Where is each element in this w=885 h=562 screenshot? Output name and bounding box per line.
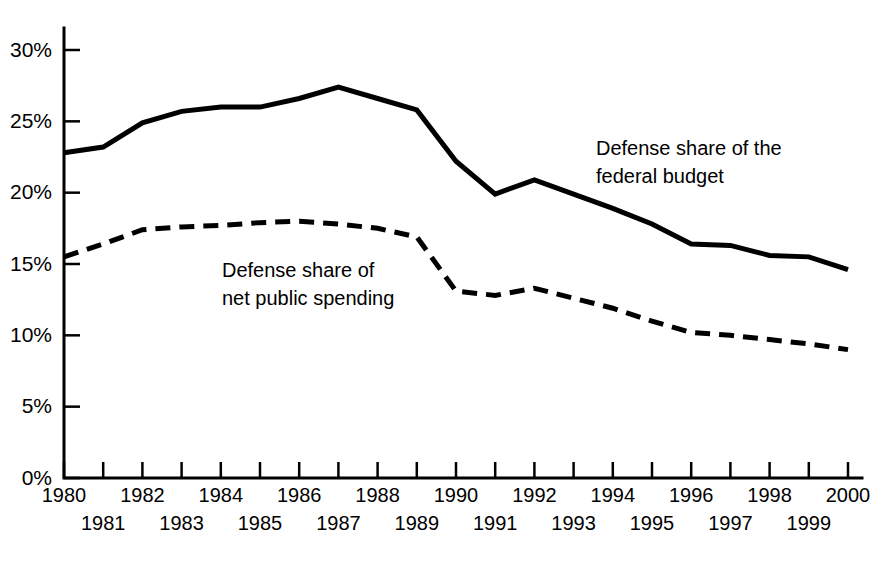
x-axis-tick-label: 1989 [395,512,440,534]
axis-lines [64,28,862,478]
y-axis-ticks [64,50,80,478]
x-axis-tick-label: 1997 [708,512,753,534]
data-series-group [64,87,848,350]
x-axis-tick-label: 1993 [551,512,596,534]
x-axis-tick-label: 1984 [199,484,244,506]
annotation-federal-budget-line1: Defense share of the [596,137,782,159]
x-axis-tick-label: 1995 [630,512,675,534]
annotation-net-public-spending-line2: net public spending [222,287,394,309]
x-axis-tick-labels: 1980198119821983198419851986198719881989… [42,484,871,534]
plot-axes [64,28,862,478]
x-axis-tick-label: 1987 [316,512,361,534]
y-axis-tick-label: 15% [10,252,52,275]
x-axis-tick-label: 1992 [512,484,557,506]
series-line-1 [64,87,848,270]
y-axis-tick-labels: 0%5%10%15%20%25%30% [10,38,52,489]
x-axis-tick-label: 1982 [120,484,165,506]
y-axis-tick-label: 20% [10,180,52,203]
line-chart: 0%5%10%15%20%25%30% 19801981198219831984… [0,0,885,562]
y-axis-tick-label: 10% [10,323,52,346]
x-axis-tick-label: 1999 [787,512,832,534]
x-axis-tick-label: 1991 [473,512,518,534]
x-axis-tick-label: 1988 [355,484,400,506]
annotation-federal-budget: Defense share of the federal budget [596,137,782,187]
x-axis-tick-label: 1994 [591,484,636,506]
chart-container: 0%5%10%15%20%25%30% 19801981198219831984… [0,0,885,562]
x-axis-tick-label: 1981 [81,512,126,534]
x-axis-tick-label: 2000 [826,484,871,506]
x-axis-tick-label: 1980 [42,484,87,506]
series-line-2 [64,221,848,349]
x-axis-tick-label: 1990 [434,484,479,506]
x-axis-tick-label: 1986 [277,484,322,506]
y-axis-tick-label: 25% [10,109,52,132]
x-axis-tick-label: 1998 [747,484,792,506]
annotation-net-public-spending: Defense share of net public spending [222,259,394,309]
x-axis-ticks [64,462,848,478]
x-axis-tick-label: 1985 [238,512,283,534]
y-axis-tick-label: 5% [22,394,52,417]
y-axis-tick-label: 30% [10,38,52,61]
x-axis-tick-label: 1996 [669,484,714,506]
x-axis-tick-label: 1983 [159,512,204,534]
annotation-federal-budget-line2: federal budget [596,165,724,187]
annotation-net-public-spending-line1: Defense share of [222,259,375,281]
